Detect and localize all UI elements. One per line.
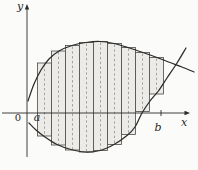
y-axis-arrow-icon: [25, 4, 29, 10]
area-between-curves-figure: y x 0 a b: [0, 0, 198, 170]
a-label: a: [34, 112, 41, 123]
figure-svg: [0, 0, 198, 170]
origin-label: 0: [15, 113, 21, 123]
y-axis-label: y: [17, 1, 23, 12]
b-label: b: [154, 122, 161, 133]
x-axis-label: x: [181, 117, 187, 128]
